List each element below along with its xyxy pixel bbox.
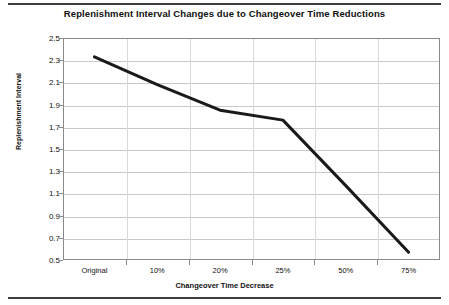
gridline	[64, 217, 439, 218]
x-axis-tick-label: 25%	[248, 266, 318, 275]
x-axis-tick-mark	[314, 260, 315, 265]
y-axis-tick-label: 2.3	[20, 56, 60, 65]
plot-area	[63, 38, 440, 260]
y-axis-tick-label: 1.3	[20, 167, 60, 176]
x-axis-tick-label: 20%	[185, 266, 255, 275]
x-axis-tick-label: 75%	[374, 266, 444, 275]
gridline	[64, 150, 439, 151]
chart-figure: Replenishment Interval Changes due to Ch…	[0, 0, 449, 305]
y-axis-tick-label: 0.9	[20, 211, 60, 220]
y-axis-tick-label: 1.5	[20, 145, 60, 154]
y-axis-tick-mark	[59, 260, 63, 261]
x-axis-tick-label: Original	[59, 266, 129, 275]
y-axis-tick-label: 1.7	[20, 122, 60, 131]
x-axis-tick-mark	[126, 260, 127, 265]
x-axis-tick-label: 10%	[122, 266, 192, 275]
x-axis-tick-mark	[377, 260, 378, 265]
gridline	[64, 61, 439, 62]
gridline	[64, 239, 439, 240]
category-separator	[315, 39, 316, 259]
y-axis-tick-label: 2.1	[20, 78, 60, 87]
x-axis-tick-mark	[252, 260, 253, 265]
gridline	[64, 172, 439, 173]
gridline	[64, 194, 439, 195]
y-axis-tick-label: 2.5	[20, 34, 60, 43]
y-axis-tick-label: 0.7	[20, 233, 60, 242]
gridline	[64, 128, 439, 129]
x-axis-tick-mark	[189, 260, 190, 265]
y-axis-tick-label: 0.5	[20, 256, 60, 265]
y-axis-tick-label: 1.1	[20, 189, 60, 198]
gridline	[64, 106, 439, 107]
gridline	[64, 83, 439, 84]
x-axis-tick-label: 50%	[311, 266, 381, 275]
chart-title: Replenishment Interval Changes due to Ch…	[0, 8, 449, 19]
category-separator	[253, 39, 254, 259]
top-divider-rule	[8, 3, 441, 5]
bottom-divider-rule	[8, 297, 441, 299]
category-separator	[127, 39, 128, 259]
category-separator	[378, 39, 379, 259]
category-separator	[190, 39, 191, 259]
x-axis-title: Changeover Time Decrease	[0, 281, 449, 290]
y-axis-tick-label: 1.9	[20, 100, 60, 109]
